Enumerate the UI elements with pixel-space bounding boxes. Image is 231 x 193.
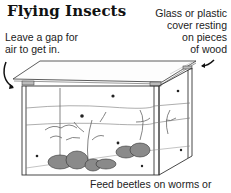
gap-arrow-icon (4, 62, 13, 87)
rocks (48, 143, 150, 171)
tank-illustration (0, 0, 231, 193)
wood-spacer (22, 81, 34, 85)
